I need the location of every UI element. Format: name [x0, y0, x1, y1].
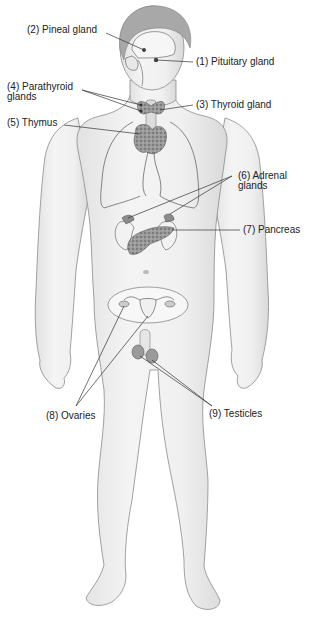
endocrine-diagram: (2) Pineal gland (1) Pituitary gland (4)…	[0, 0, 311, 627]
label-thymus: (5) Thymus	[7, 118, 57, 128]
thymus	[134, 124, 167, 153]
label-pineal-gland: (2) Pineal gland	[27, 25, 97, 35]
label-ovaries: (8) Ovaries	[46, 411, 95, 421]
navel	[143, 270, 149, 274]
label-thyroid-gland: (3) Thyroid gland	[196, 100, 271, 110]
label-testicles: (9) Testicles	[209, 409, 262, 419]
label-pancreas: (7) Pancreas	[243, 225, 300, 235]
label-adrenal-glands: (6) Adrenal glands	[238, 171, 287, 191]
label-pituitary-gland: (1) Pituitary gland	[196, 57, 274, 67]
testicle-right	[146, 349, 158, 363]
testicle-left	[132, 345, 144, 359]
ovary-right	[165, 301, 175, 307]
label-parathyroid-glands: (4) Parathyroid glands	[7, 82, 73, 102]
